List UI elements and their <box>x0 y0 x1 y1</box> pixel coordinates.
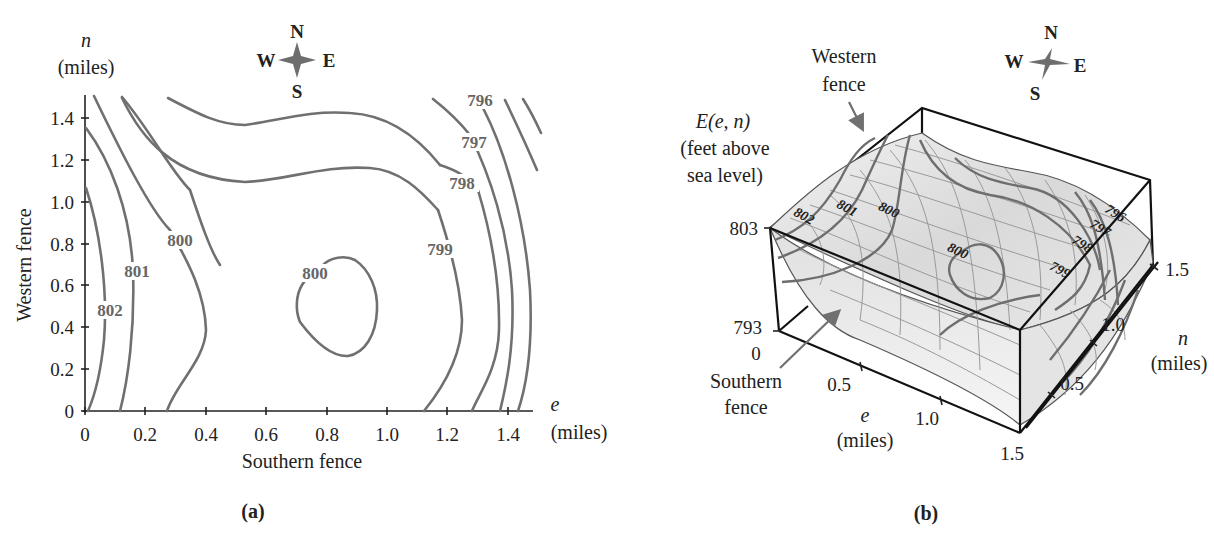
compass-w-label: W <box>257 50 276 71</box>
y-tick-label: 1.4 <box>50 108 74 129</box>
compass-s-label: S <box>292 81 303 102</box>
southern-fence-arrow <box>780 312 838 368</box>
western-fence-label-2: fence <box>822 73 865 95</box>
y-axis-caption: Western fence <box>13 208 35 321</box>
panel-a-contour-map: N W E S n (miles) Western fence e (miles… <box>13 21 607 523</box>
y-axis-unit: (miles) <box>58 56 115 79</box>
contour-798-upper <box>122 98 438 210</box>
y-axis-ticks: 0 0.2 0.4 0.6 0.8 1.0 1.2 1.4 <box>50 108 89 422</box>
contour-799-upper <box>168 98 440 165</box>
contour-labels: 802 801 800 800 799 798 797 796 <box>93 91 497 320</box>
contour-label-797: 797 <box>461 133 487 152</box>
contour-label-799: 799 <box>427 240 453 259</box>
y-tick-label: 1.0 <box>50 192 74 213</box>
compass-n-label: N <box>1044 22 1058 43</box>
y-tick-label: 0.6 <box>50 275 74 296</box>
contour-794 <box>523 99 541 133</box>
contour-795 <box>505 100 537 170</box>
z-tick-bottom: 793 <box>734 317 763 338</box>
n-tick-label: 0.5 <box>1060 373 1084 394</box>
x-tick-label: 1.0 <box>375 424 399 445</box>
contour-label-798: 798 <box>449 174 475 193</box>
e-tick-label: 1.5 <box>1000 443 1024 464</box>
panel-b-caption: (b) <box>914 502 938 525</box>
panel-a-caption: (a) <box>241 500 264 523</box>
x-tick-label: 1.4 <box>496 424 520 445</box>
contour-796 <box>483 108 531 411</box>
n-axis-variable: n <box>1178 327 1188 349</box>
x-axis-unit: (miles) <box>551 421 608 444</box>
x-axis-caption: Southern fence <box>242 450 363 472</box>
compass-e-label: E <box>323 50 336 71</box>
compass-star-icon <box>1028 48 1070 80</box>
southern-fence-label-2: fence <box>724 396 767 418</box>
x-tick-label: 0.4 <box>194 424 218 445</box>
x-tick-label: 1.2 <box>435 424 459 445</box>
z-tick-top: 803 <box>730 218 759 239</box>
contour-label-796: 796 <box>467 91 493 110</box>
n-axis-unit: (miles) <box>1151 352 1208 375</box>
n-tick-label: 1.0 <box>1101 314 1125 335</box>
n-tick-label: 1.5 <box>1165 259 1189 280</box>
compass-s-label: S <box>1030 83 1041 104</box>
y-axis-variable: n <box>81 29 91 51</box>
panel-b-surface-plot: N W E S E(e, n) (feet above sea level) W… <box>680 22 1207 525</box>
z-axis-unit-line1: (feet above <box>680 137 770 160</box>
southern-fence-label-1: Southern <box>710 370 782 392</box>
e-tick-label: 0.5 <box>827 374 851 395</box>
compass-w-label: W <box>1005 51 1024 72</box>
compass-e-label: E <box>1074 55 1087 76</box>
contour-label-802: 802 <box>97 301 123 320</box>
contour-label-800-left: 800 <box>167 231 193 250</box>
y-tick-label: 0 <box>65 401 75 422</box>
contour-800-left <box>94 96 206 411</box>
y-tick-label: 1.2 <box>50 150 74 171</box>
e-axis-unit: (miles) <box>837 429 894 452</box>
z-axis-label: E(e, n) <box>695 110 751 133</box>
x-tick-label: 0.2 <box>133 424 157 445</box>
contour-label-800-loop: 800 <box>302 264 328 283</box>
compass-star-icon <box>278 42 316 78</box>
x-axis-variable: e <box>551 393 560 415</box>
contour-label-801: 801 <box>124 262 150 281</box>
compass-rose: N W E S <box>257 21 336 102</box>
e-tick-label: 0 <box>751 343 761 364</box>
figure-canvas: N W E S n (miles) Western fence e (miles… <box>0 0 1214 536</box>
compass-rose: N W E S <box>1005 22 1087 104</box>
z-axis-unit-line2: sea level) <box>687 164 763 187</box>
y-tick-label: 0.8 <box>50 234 74 255</box>
contour-802 <box>86 188 105 411</box>
western-fence-label-1: Western <box>811 45 876 67</box>
box-bottom-back-edge <box>779 306 808 331</box>
e-tick-label: 1.0 <box>915 408 939 429</box>
e-axis-variable: e <box>861 404 870 426</box>
y-tick-label: 0.2 <box>50 359 74 380</box>
x-tick-label: 0 <box>80 424 90 445</box>
x-tick-label: 0.6 <box>254 424 278 445</box>
western-fence-arrow <box>849 102 862 128</box>
x-tick-label: 0.8 <box>315 424 339 445</box>
x-axis-ticks: 0 0.2 0.4 0.6 0.8 1.0 1.2 1.4 <box>80 407 520 445</box>
compass-n-label: N <box>290 21 304 42</box>
y-tick-label: 0.4 <box>50 317 74 338</box>
